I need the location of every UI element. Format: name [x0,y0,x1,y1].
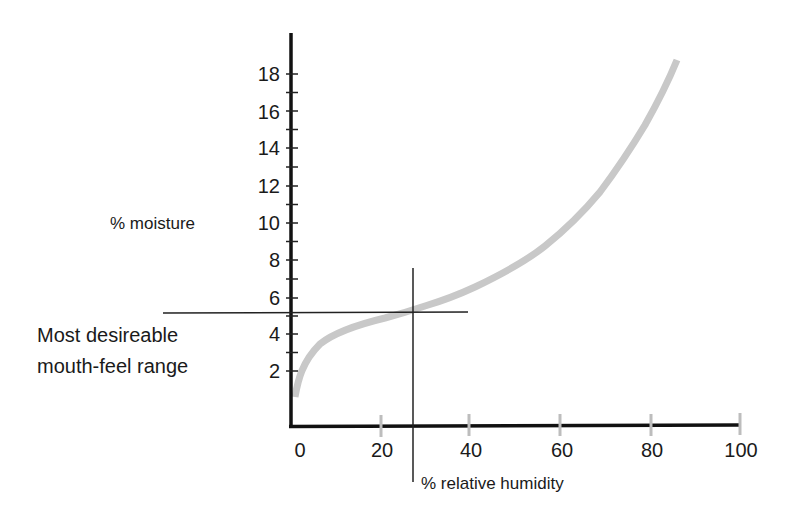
x-tick-label-0: 0 [275,439,325,461]
x-tick-label-20: 20 [357,439,407,461]
chart-canvas [0,0,791,514]
x-tick-label-40: 40 [446,439,496,461]
y-tick-label-6: 6 [240,287,280,309]
x-axis [289,425,740,427]
y-tick-label-18: 18 [240,63,280,85]
annotation-line-1: Most desireable [37,324,178,346]
x-tick-label-80: 80 [627,439,677,461]
y-tick-label-16: 16 [240,101,280,123]
annotation-line-2: mouth-feel range [37,355,188,377]
isotherm-curve [295,60,677,397]
y-tick-label-14: 14 [240,137,280,159]
x-tick-label-100: 100 [716,439,766,461]
x-tick-label-60: 60 [537,439,587,461]
x-axis-label: % relative humidity [421,473,564,495]
y-tick-label-10: 10 [240,212,280,234]
y-tick-label-8: 8 [240,249,280,271]
y-tick-label-2: 2 [240,360,280,382]
y-tick-label-4: 4 [240,323,280,345]
y-axis-label: % moisture [110,213,195,235]
crosshair-horizontal [163,312,468,313]
y-tick-label-12: 12 [240,175,280,197]
